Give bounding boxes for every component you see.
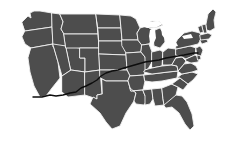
map-figure: Map of the contiguous United States Sout… [0, 0, 228, 152]
state-wyoming [64, 34, 99, 48]
state-north-dakota [96, 14, 121, 28]
state-south-dakota [98, 28, 122, 41]
state-kansas [99, 54, 127, 70]
state-montana [60, 14, 98, 34]
us-map [0, 0, 228, 152]
state-oklahoma [100, 70, 130, 81]
